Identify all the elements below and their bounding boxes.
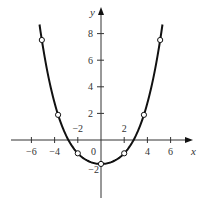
function-graph: −6−4−22462468−2 x y 0 [0,0,206,203]
origin-label: 0 [91,146,96,157]
y-tick-label: 8 [88,28,93,39]
open-point [75,151,80,156]
open-point [158,37,163,42]
y-tick-label: 6 [88,55,93,66]
x-tick-label: −2 [72,123,83,134]
open-point [141,112,146,117]
open-point [39,37,44,42]
y-tick-label: 2 [88,108,93,119]
open-point [98,161,103,166]
chart-container: −6−4−22462468−2 x y 0 [0,0,206,203]
x-tick-label: −6 [26,146,37,157]
tick-labels: −6−4−22462468−2 [26,28,173,175]
x-tick-label: 2 [122,123,127,134]
x-tick-label: −4 [49,146,60,157]
x-tick-label: 4 [145,146,150,157]
open-point [122,151,127,156]
y-axis-label: y [89,6,95,18]
y-tick-label: 4 [88,81,93,92]
x-tick-label: 6 [168,146,173,157]
y-axis-arrow-icon [98,7,104,15]
y-tick-label: −2 [88,164,99,175]
axes [11,7,193,198]
open-point [55,112,60,117]
x-axis-arrow-icon [185,137,193,143]
x-axis-label: x [190,145,196,157]
